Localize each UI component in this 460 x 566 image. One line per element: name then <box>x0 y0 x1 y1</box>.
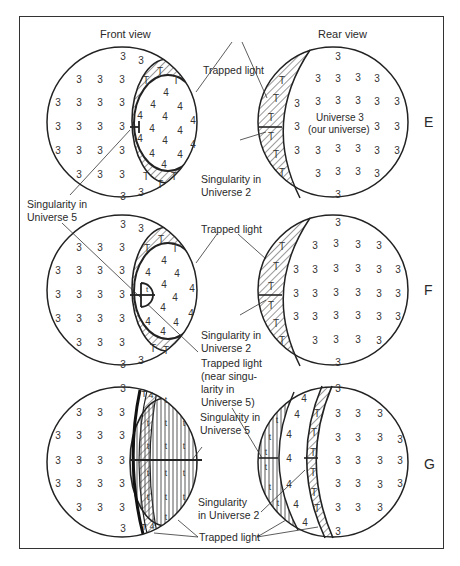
svg-text:3: 3 <box>120 219 126 230</box>
svg-text:3: 3 <box>395 264 401 275</box>
svg-text:3: 3 <box>76 289 82 300</box>
svg-text:3: 3 <box>293 311 299 322</box>
svg-text:T: T <box>268 281 274 292</box>
label-f-trapped-near-line3: larity in <box>201 383 234 396</box>
svg-text:4: 4 <box>177 149 183 160</box>
svg-text:T: T <box>158 234 164 245</box>
svg-text:3: 3 <box>55 289 61 300</box>
svg-text:3: 3 <box>377 408 383 419</box>
svg-text:4: 4 <box>162 135 168 146</box>
svg-text:4: 4 <box>293 499 299 510</box>
svg-text:4: 4 <box>149 521 154 531</box>
label-g-singularity-u2-line2: in Universe 2 <box>198 509 259 522</box>
svg-text:3: 3 <box>335 526 341 537</box>
svg-text:3: 3 <box>97 242 103 253</box>
svg-text:3: 3 <box>76 265 82 276</box>
svg-text:T: T <box>143 75 149 86</box>
svg-text:4: 4 <box>172 292 178 303</box>
svg-text:4: 4 <box>286 479 292 490</box>
svg-text:T: T <box>268 131 274 142</box>
svg-text:4: 4 <box>163 87 169 98</box>
svg-text:3: 3 <box>119 430 125 441</box>
svg-text:T: T <box>279 241 285 252</box>
svg-text:3: 3 <box>335 455 341 466</box>
svg-text:4: 4 <box>137 133 143 144</box>
svg-text:4: 4 <box>161 159 167 170</box>
label-universe3-line2: (our universe) <box>308 124 370 137</box>
label-universe3-line1: Universe 3 <box>316 112 364 125</box>
label-f-trapped-near-line4: Universe 5) <box>201 396 255 409</box>
svg-text:3: 3 <box>394 121 400 132</box>
svg-text:3: 3 <box>355 287 361 298</box>
svg-text:T: T <box>310 467 316 478</box>
svg-text:3: 3 <box>335 478 341 489</box>
svg-text:3: 3 <box>355 72 361 83</box>
svg-text:3: 3 <box>377 432 383 443</box>
svg-text:3: 3 <box>76 313 82 324</box>
svg-text:3: 3 <box>312 335 318 346</box>
svg-text:3: 3 <box>119 337 125 348</box>
svg-text:3: 3 <box>120 191 126 202</box>
svg-text:3: 3 <box>76 455 82 466</box>
svg-text:4: 4 <box>190 139 196 150</box>
svg-text:3: 3 <box>55 478 61 489</box>
svg-text:3: 3 <box>293 288 299 299</box>
svg-text:3: 3 <box>377 455 383 466</box>
svg-text:T: T <box>172 243 178 254</box>
svg-text:3: 3 <box>119 502 125 513</box>
svg-text:3: 3 <box>312 240 318 251</box>
svg-text:3: 3 <box>395 288 401 299</box>
svg-text:3: 3 <box>76 478 82 489</box>
svg-text:T: T <box>279 335 285 346</box>
svg-text:3: 3 <box>355 143 361 154</box>
row-g-front: 3 333 3333 3333 3333 333 3 T4 T4 t ttt t… <box>47 383 202 538</box>
svg-text:3: 3 <box>76 502 82 513</box>
svg-text:T: T <box>268 112 274 123</box>
svg-text:3: 3 <box>374 168 380 179</box>
svg-text:3: 3 <box>355 95 361 106</box>
svg-text:4: 4 <box>145 267 151 278</box>
svg-text:4: 4 <box>177 125 183 136</box>
svg-text:3: 3 <box>119 242 125 253</box>
svg-text:3: 3 <box>315 168 321 179</box>
svg-text:3: 3 <box>97 121 103 132</box>
svg-text:T: T <box>171 171 177 182</box>
svg-text:3: 3 <box>55 97 61 108</box>
svg-text:3: 3 <box>394 96 400 107</box>
svg-text:4: 4 <box>149 123 155 134</box>
svg-text:3: 3 <box>376 264 382 275</box>
svg-text:3: 3 <box>312 264 318 275</box>
svg-text:3: 3 <box>397 434 403 445</box>
label-e-singularity-u2-line1: Singularity in <box>201 173 261 186</box>
svg-text:3: 3 <box>355 455 361 466</box>
svg-text:3: 3 <box>119 478 125 489</box>
svg-text:4: 4 <box>173 317 179 328</box>
svg-text:3: 3 <box>395 311 401 322</box>
svg-text:3: 3 <box>119 121 125 132</box>
svg-text:3: 3 <box>76 121 82 132</box>
svg-text:3: 3 <box>293 264 299 275</box>
svg-text:3: 3 <box>315 145 321 156</box>
svg-text:T: T <box>141 522 147 532</box>
svg-text:T: T <box>311 427 317 438</box>
svg-text:T: T <box>163 345 169 356</box>
svg-text:3: 3 <box>55 313 61 324</box>
svg-text:3: 3 <box>138 355 144 366</box>
svg-text:3: 3 <box>355 408 361 419</box>
svg-text:T: T <box>273 261 279 272</box>
svg-text:3: 3 <box>333 310 339 321</box>
svg-text:3: 3 <box>119 455 125 466</box>
svg-text:3: 3 <box>97 313 103 324</box>
svg-text:4: 4 <box>162 111 168 122</box>
svg-text:3: 3 <box>335 143 341 154</box>
svg-text:3: 3 <box>55 455 61 466</box>
svg-text:3: 3 <box>76 74 82 85</box>
svg-text:3: 3 <box>312 288 318 299</box>
svg-text:3: 3 <box>119 265 125 276</box>
svg-text:3: 3 <box>97 265 103 276</box>
svg-text:3: 3 <box>374 121 380 132</box>
svg-text:4: 4 <box>160 326 166 337</box>
svg-text:4: 4 <box>188 308 194 319</box>
svg-text:T: T <box>314 408 320 419</box>
row-f-front: t 33 333 3333 3333 3333 333 33 444 444 4… <box>47 215 204 370</box>
